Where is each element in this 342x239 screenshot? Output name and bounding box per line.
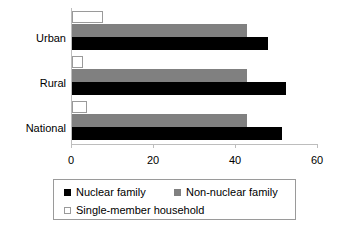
- legend-row-1: Nuclear family Non-nuclear family: [54, 182, 295, 202]
- bar-national-nuclear-family: [72, 127, 282, 140]
- category-label-national: National: [26, 123, 66, 134]
- legend-label-non-nuclear-family: Non-nuclear family: [186, 186, 278, 198]
- bar-rural-nuclear-family: [72, 82, 286, 95]
- tick-label-0: 0: [56, 154, 86, 166]
- bar-urban-single-member-household: [72, 11, 103, 23]
- legend: Nuclear family Non-nuclear family Single…: [53, 179, 296, 220]
- tick-mark-60: [317, 144, 318, 148]
- legend-label-single-member-household: Single-member household: [76, 204, 204, 216]
- legend-swatch-white-icon: [64, 207, 71, 214]
- tick-label-60: 60: [302, 154, 332, 166]
- bar-national-non-nuclear-family: [72, 114, 247, 127]
- plot-area: 0 20 40 60: [71, 8, 318, 144]
- tick-mark-20: [153, 144, 154, 148]
- bar-group-rural: [72, 56, 318, 96]
- tick-label-20: 20: [138, 154, 168, 166]
- legend-label-nuclear-family: Nuclear family: [76, 186, 146, 198]
- bar-urban-non-nuclear-family: [72, 24, 247, 37]
- category-label-rural: Rural: [40, 78, 66, 89]
- bar-rural-single-member-household: [72, 56, 83, 68]
- bar-group-urban: [72, 11, 318, 51]
- legend-item-nuclear-family[interactable]: Nuclear family: [64, 182, 146, 202]
- legend-item-non-nuclear-family[interactable]: Non-nuclear family: [174, 182, 278, 202]
- tick-label-40: 40: [220, 154, 250, 166]
- bar-group-national: [72, 101, 318, 141]
- legend-swatch-gray-icon: [174, 189, 181, 196]
- category-label-urban: Urban: [36, 33, 66, 44]
- bar-urban-nuclear-family: [72, 37, 268, 50]
- legend-swatch-black-icon: [64, 189, 71, 196]
- bar-national-single-member-household: [72, 101, 87, 113]
- legend-item-single-member-household[interactable]: Single-member household: [64, 200, 204, 220]
- bar-chart: Urban Rural National 0 20 40: [0, 0, 342, 239]
- category-axis-line: [71, 144, 318, 145]
- tick-mark-0: [71, 144, 72, 148]
- tick-mark-40: [235, 144, 236, 148]
- legend-row-2: Single-member household: [54, 200, 295, 220]
- bar-rural-non-nuclear-family: [72, 69, 247, 82]
